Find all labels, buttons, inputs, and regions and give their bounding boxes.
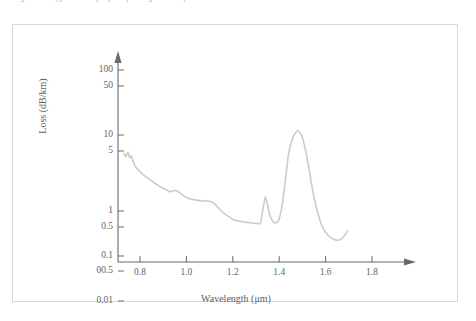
figure-box: 1005010510.50.100.50.01 0.81.01.21.41.61…: [12, 24, 458, 302]
x-tick-label: 1.2: [213, 268, 253, 278]
y-axis: [114, 51, 121, 262]
y-tick-label: 50: [53, 81, 113, 91]
y-tick-marks: [118, 70, 124, 301]
x-tick-label: 1.4: [259, 268, 299, 278]
x-tick-marks: [140, 256, 372, 262]
x-axis-title: Wavelength (μm): [13, 293, 459, 304]
plot-area: 1005010510.50.100.50.01 0.81.01.21.41.61…: [13, 25, 459, 303]
x-tick-label: 1.6: [306, 268, 346, 278]
figure-caption: Figure 3.6 Typical loss profile of a sin…: [13, 0, 200, 2]
x-axis: [118, 258, 416, 265]
figure-caption-strip: Figure 3.6 Typical loss profile of a sin…: [0, 0, 476, 10]
y-tick-label: 1: [53, 206, 113, 216]
y-tick-label: 0.5: [53, 222, 113, 232]
x-tick-label: 1.0: [166, 268, 206, 278]
y-tick-label: 5: [53, 146, 113, 156]
y-axis-title: Loss (dB/km): [37, 78, 48, 133]
attenuation-curve: [124, 130, 348, 240]
x-tick-label: 1.8: [352, 268, 392, 278]
y-tick-label: 100: [53, 65, 113, 75]
y-tick-label: 0.1: [53, 251, 113, 261]
y-axis-title-wrap: Loss (dB/km): [32, 36, 50, 176]
y-tick-label: 00.5: [53, 266, 113, 276]
x-tick-label: 0.8: [120, 268, 160, 278]
y-tick-label: 10: [53, 130, 113, 140]
